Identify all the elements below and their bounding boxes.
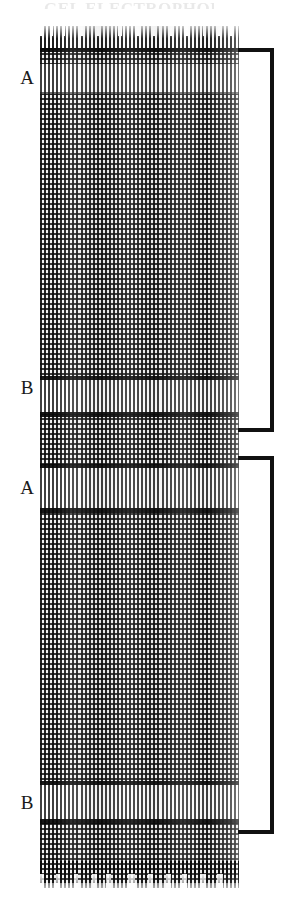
cropped-caption-text: GEL ELECTROPHORESIS — [44, 0, 214, 9]
bracket-lower-spine — [270, 456, 274, 834]
rule-b2-under — [40, 819, 239, 824]
pale-band-a-1 — [40, 64, 239, 94]
bracket-upper — [238, 48, 274, 432]
rule-a1-under — [40, 92, 239, 95]
row-label-b-1: B — [14, 378, 40, 397]
bracket-lower — [238, 456, 274, 834]
pale-band-b-1 — [40, 378, 239, 414]
pale-band-a-2 — [40, 466, 239, 510]
bracket-upper-top-arm — [238, 48, 274, 52]
rule-b1-over — [40, 376, 239, 380]
bracket-lower-bottom-arm — [238, 830, 274, 834]
figure-autoradiograph: GEL ELECTROPHORESIS A B A B — [0, 0, 296, 912]
rule-top — [40, 48, 239, 52]
row-label-a-2: A — [14, 478, 40, 497]
gel-ragged-bottom-edge — [40, 861, 239, 888]
gel-image — [40, 26, 239, 888]
rule-b2-over — [40, 781, 239, 785]
row-label-a-1: A — [14, 68, 40, 87]
rule-a2-under — [40, 508, 239, 513]
pale-band-b-2 — [40, 783, 239, 821]
gel-ragged-top-edge — [40, 26, 239, 49]
rule-a2-over — [40, 464, 239, 468]
bracket-upper-bottom-arm — [238, 428, 274, 432]
row-label-b-2: B — [14, 793, 40, 812]
bracket-upper-spine — [270, 48, 274, 432]
bracket-lower-top-arm — [238, 456, 274, 460]
rule-b1-under — [40, 412, 239, 417]
